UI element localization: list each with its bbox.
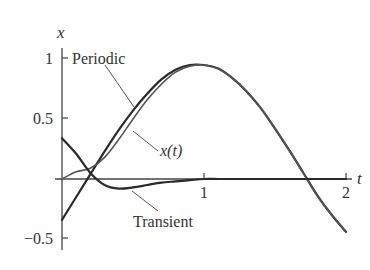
curves: [62, 64, 346, 231]
chart: x t 1 0.5 −0.5 1 2 Periodic x(t) Transie…: [0, 0, 370, 270]
periodic-label: Periodic: [72, 50, 125, 67]
series-x-t: [62, 65, 346, 232]
x-tick-label-2: 2: [342, 184, 350, 201]
y-tick-label-0.5: 0.5: [33, 110, 53, 127]
series-periodic: [62, 64, 346, 231]
transient-label: Transient: [133, 213, 193, 230]
series-transient: [62, 138, 346, 188]
y-axis-label: x: [56, 23, 65, 42]
y-tick-label-neg0.5: −0.5: [24, 230, 53, 247]
xt-leader: [133, 131, 158, 151]
x-tick-label-1: 1: [200, 184, 208, 201]
y-tick-label-1: 1: [45, 50, 53, 67]
xt-label: x(t): [159, 142, 182, 160]
x-axis-label: t: [357, 169, 363, 188]
periodic-leader: [105, 65, 134, 107]
transient-leader: [132, 191, 158, 211]
